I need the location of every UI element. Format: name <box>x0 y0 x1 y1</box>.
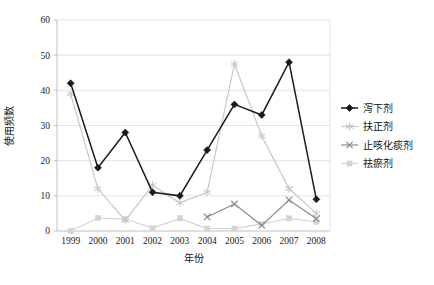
series-line-扶正剂 <box>71 64 317 220</box>
marker-star-扶正剂 <box>204 188 211 196</box>
y-axis-title: 使用频数 <box>3 106 15 146</box>
y-tick-label: 50 <box>41 51 51 61</box>
legend-label-泻下剂: 泻下剂 <box>363 102 393 114</box>
x-tick-label: 2003 <box>170 236 189 246</box>
legend-label-祛瘀剂: 祛瘀剂 <box>363 157 393 169</box>
legend-label-止咳化痰剂: 止咳化痰剂 <box>363 139 413 151</box>
marker-square-祛瘀剂 <box>286 216 291 221</box>
series-line-祛瘀剂 <box>71 218 317 231</box>
x-axis-title: 年份 <box>184 252 204 264</box>
legend-item-泻下剂[interactable]: 泻下剂 <box>341 102 393 114</box>
y-tick-label: 20 <box>41 156 51 166</box>
x-axis-group: 1999200020012002200320042005200620072008 <box>61 236 326 246</box>
legend: 泻下剂扶正剂止咳化痰剂祛瘀剂 <box>341 102 413 170</box>
marker-diamond-泻下剂 <box>204 147 211 154</box>
marker-diamond-泻下剂 <box>346 105 353 112</box>
marker-diamond-泻下剂 <box>176 192 183 199</box>
x-tick-label: 1999 <box>61 236 80 246</box>
marker-square-祛瘀剂 <box>150 226 155 231</box>
marker-square-祛瘀剂 <box>68 228 73 233</box>
marker-star-扶正剂 <box>231 60 238 68</box>
marker-square-祛瘀剂 <box>177 216 182 221</box>
x-tick-label: 2002 <box>143 236 162 246</box>
marker-star-扶正剂 <box>176 199 183 207</box>
marker-x-止咳化痰剂 <box>231 201 237 207</box>
x-tick-label: 2004 <box>198 236 217 246</box>
marker-square-祛瘀剂 <box>95 215 100 220</box>
legend-item-止咳化痰剂[interactable]: 止咳化痰剂 <box>341 139 413 151</box>
x-tick-label: 2008 <box>307 236 326 246</box>
marker-square-祛瘀剂 <box>205 226 210 231</box>
legend-item-扶正剂[interactable]: 扶正剂 <box>341 120 393 132</box>
marker-star-扶正剂 <box>258 132 265 140</box>
marker-diamond-泻下剂 <box>286 59 293 66</box>
marker-diamond-泻下剂 <box>231 101 238 108</box>
series-line-泻下剂 <box>71 62 317 199</box>
y-tick-label: 30 <box>41 121 51 131</box>
marker-square-祛瘀剂 <box>347 161 352 166</box>
marker-square-祛瘀剂 <box>232 226 237 231</box>
y-tick-label: 60 <box>41 15 51 25</box>
y-tick-label: 0 <box>45 226 50 236</box>
legend-item-祛瘀剂[interactable]: 祛瘀剂 <box>341 157 393 169</box>
x-tick-label: 2001 <box>116 236 135 246</box>
series-扶正剂 <box>67 60 320 224</box>
y-tick-label: 40 <box>41 86 51 96</box>
series-泻下剂 <box>67 59 320 203</box>
marker-diamond-泻下剂 <box>313 196 320 203</box>
line-chart: 0102030405060199920002001200220032004200… <box>0 0 434 285</box>
x-tick-label: 2000 <box>88 236 107 246</box>
legend-label-扶正剂: 扶正剂 <box>363 120 393 132</box>
x-tick-label: 2006 <box>252 236 271 246</box>
marker-diamond-泻下剂 <box>67 80 74 87</box>
marker-x-止咳化痰剂 <box>286 197 292 203</box>
marker-x-止咳化痰剂 <box>204 214 210 220</box>
y-tick-label: 10 <box>41 191 51 201</box>
marker-diamond-泻下剂 <box>258 111 265 118</box>
chart-container: 0102030405060199920002001200220032004200… <box>0 0 434 285</box>
marker-diamond-泻下剂 <box>149 189 156 196</box>
x-tick-label: 2007 <box>280 236 299 246</box>
x-tick-label: 2005 <box>225 236 244 246</box>
